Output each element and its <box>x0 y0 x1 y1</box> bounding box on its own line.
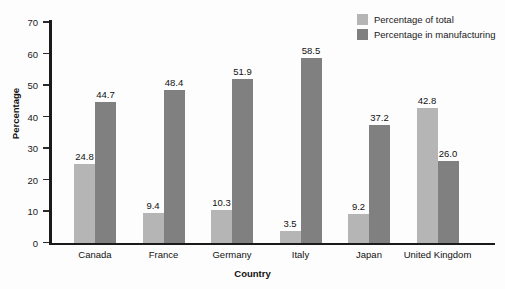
bar-percentage-in-manufacturing[interactable] <box>95 102 116 243</box>
y-tick-label: 60 <box>16 48 38 59</box>
y-axis-line <box>49 20 52 245</box>
x-tick-label-france: France <box>149 249 179 260</box>
bar-value-label: 51.9 <box>233 66 252 77</box>
bar-percentage-of-total-wrap: 42.8 <box>417 22 438 243</box>
bar-percentage-in-manufacturing-wrap: 48.4 <box>164 22 185 243</box>
bar-percentage-of-total-wrap: 10.3 <box>211 22 232 243</box>
y-tick-mark <box>43 116 49 118</box>
bar-value-label: 9.4 <box>146 200 159 211</box>
bar-percentage-in-manufacturing[interactable] <box>301 58 322 242</box>
bar-value-label: 48.4 <box>165 77 184 88</box>
bar-percentage-in-manufacturing[interactable] <box>369 125 390 242</box>
bar-group: 42.826.0 <box>417 22 459 243</box>
y-tick-mark <box>43 53 49 55</box>
x-axis-line <box>49 243 495 246</box>
bar-value-label: 10.3 <box>212 197 231 208</box>
bar-percentage-of-total-wrap: 24.8 <box>74 22 95 243</box>
y-tick-mark <box>43 21 49 23</box>
bar-group: 9.237.2 <box>348 22 390 243</box>
bar-percentage-in-manufacturing[interactable] <box>438 161 459 243</box>
y-tick-mark <box>43 84 49 86</box>
bar-percentage-in-manufacturing-wrap: 44.7 <box>95 22 116 243</box>
x-tick-label-italy: Italy <box>292 249 309 260</box>
bar-value-label: 3.5 <box>283 218 296 229</box>
y-tick-mark <box>43 147 49 149</box>
bar-percentage-of-total-wrap: 9.2 <box>348 22 369 243</box>
x-tick-label-united-kingdom: United Kingdom <box>404 249 472 260</box>
bar-percentage-of-total[interactable] <box>417 108 438 243</box>
x-tick-label-canada: Canada <box>78 249 111 260</box>
bar-value-label: 44.7 <box>96 89 115 100</box>
bar-value-label: 58.5 <box>302 45 321 56</box>
bar-group: 24.844.7 <box>74 22 116 243</box>
x-tick-label-japan: Japan <box>356 249 382 260</box>
y-tick-label: 20 <box>16 174 38 185</box>
bar-percentage-in-manufacturing-wrap: 26.0 <box>438 22 459 243</box>
y-tick-label: 0 <box>16 237 38 248</box>
bar-percentage-of-total[interactable] <box>143 213 164 243</box>
bar-group: 10.351.9 <box>211 22 253 243</box>
bar-percentage-in-manufacturing-wrap: 58.5 <box>301 22 322 243</box>
bar-value-label: 26.0 <box>439 148 458 159</box>
bar-group: 3.558.5 <box>280 22 322 243</box>
bar-percentage-of-total[interactable] <box>348 214 369 243</box>
y-tick-mark <box>43 179 49 181</box>
y-tick-label: 70 <box>16 17 38 28</box>
bar-percentage-in-manufacturing[interactable] <box>164 90 185 242</box>
y-axis-title: Percentage <box>10 79 21 149</box>
bar-value-label: 37.2 <box>370 112 389 123</box>
bar-percentage-in-manufacturing[interactable] <box>232 79 253 242</box>
bar-percentage-of-total[interactable] <box>211 210 232 242</box>
bar-value-label: 42.8 <box>418 95 437 106</box>
bar-group: 9.448.4 <box>143 22 185 243</box>
y-tick-mark <box>43 242 49 244</box>
bar-percentage-of-total[interactable] <box>74 164 95 242</box>
bar-percentage-of-total-wrap: 9.4 <box>143 22 164 243</box>
bar-percentage-in-manufacturing-wrap: 51.9 <box>232 22 253 243</box>
y-tick-label: 10 <box>16 206 38 217</box>
bar-percentage-of-total[interactable] <box>280 231 301 242</box>
bar-chart: Percentage of total Percentage in manufa… <box>0 0 505 289</box>
x-axis-title: Country <box>0 268 505 279</box>
bar-percentage-in-manufacturing-wrap: 37.2 <box>369 22 390 243</box>
bar-percentage-of-total-wrap: 3.5 <box>280 22 301 243</box>
y-tick-mark <box>43 210 49 212</box>
x-tick-label-germany: Germany <box>212 249 251 260</box>
bar-value-label: 9.2 <box>352 201 365 212</box>
bar-value-label: 24.8 <box>75 151 94 162</box>
